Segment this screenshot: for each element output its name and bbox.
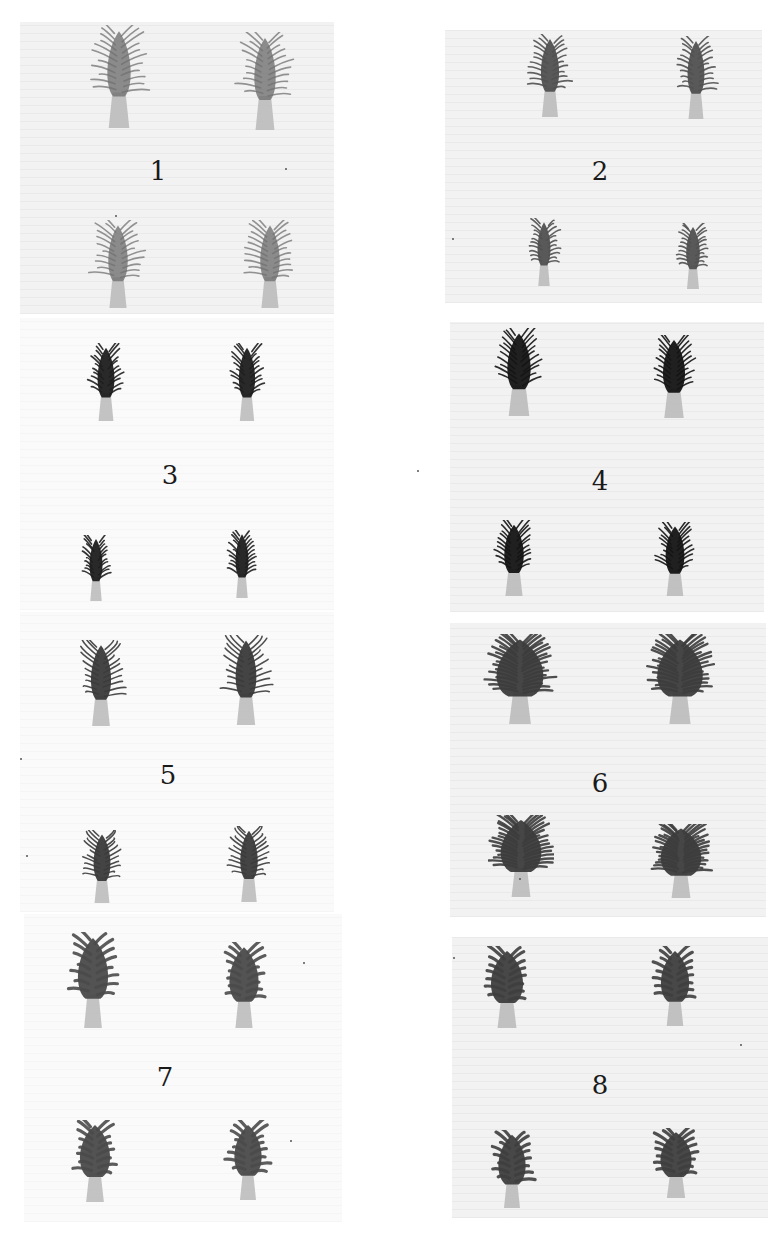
dust-speck [740, 1044, 742, 1046]
dust-speck [290, 1140, 292, 1142]
specimen-image [648, 824, 714, 904]
specimen-image [220, 1120, 276, 1206]
panel-number-label: 7 [157, 1064, 174, 1090]
dust-speck [519, 878, 521, 880]
dust-speck [417, 470, 419, 472]
specimen-image [484, 520, 544, 602]
figure-panel-5 [20, 612, 334, 912]
specimen-image [644, 1128, 708, 1204]
specimen-image [640, 335, 708, 424]
panel-number-label: 3 [162, 462, 179, 488]
specimen-image [524, 218, 564, 292]
specimen-image [483, 328, 555, 422]
specimen-image [214, 635, 278, 731]
specimen-image [646, 522, 704, 602]
specimen-plate: 12345678 [0, 0, 773, 1236]
specimen-image [474, 946, 540, 1034]
specimen-image [80, 343, 132, 427]
specimen-image [88, 220, 148, 314]
dust-speck [285, 168, 287, 170]
specimen-image [646, 946, 704, 1032]
specimen-image [83, 25, 155, 134]
specimen-image [214, 942, 274, 1034]
specimen-image [222, 826, 276, 908]
specimen-image [672, 223, 714, 295]
specimen-image [643, 634, 717, 730]
specimen-image [232, 32, 298, 136]
specimen-image [76, 830, 128, 909]
dust-speck [20, 758, 22, 760]
dust-speck [26, 855, 28, 857]
panel-number-label: 2 [592, 158, 609, 184]
panel-number-label: 5 [160, 762, 177, 788]
dust-speck [452, 238, 454, 240]
specimen-image [488, 815, 554, 903]
specimen-image [62, 932, 124, 1034]
specimen-image [76, 535, 116, 607]
specimen-image [240, 220, 300, 314]
dust-speck [453, 957, 455, 959]
specimen-image [70, 640, 132, 732]
panel-number-label: 4 [592, 468, 609, 494]
specimen-image [670, 36, 722, 125]
panel-number-label: 8 [592, 1072, 609, 1098]
panel-number-label: 1 [150, 158, 167, 184]
specimen-image [522, 34, 578, 123]
dust-speck [115, 215, 117, 217]
specimen-image [482, 634, 558, 730]
panel-number-label: 6 [592, 770, 609, 796]
specimen-image [484, 1130, 540, 1214]
specimen-image [222, 343, 272, 427]
specimen-image [222, 530, 262, 604]
specimen-image [64, 1120, 126, 1208]
dust-speck [303, 962, 305, 964]
